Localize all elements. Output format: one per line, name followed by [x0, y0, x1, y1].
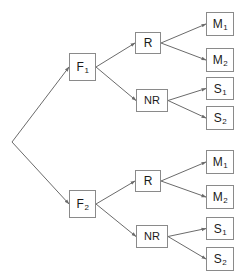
diagram-canvas: F1 R NR M1 M2 S1 S2 F2 R NR M1 M2 S1 S2 [0, 0, 249, 274]
node-f2-r[interactable]: R [135, 170, 161, 192]
edge-f1-to-f1-r [96, 43, 135, 67]
node-label: M2 [213, 54, 227, 66]
node-f2[interactable]: F2 [69, 190, 96, 218]
edge-f2-to-f2-r [96, 181, 135, 204]
node-label: NR [144, 95, 160, 106]
edge-f2-r-to-f2-m2 [161, 181, 206, 197]
node-f2-s2[interactable]: S2 [206, 247, 234, 271]
edge-f1-r-to-f1-m2 [161, 43, 206, 60]
node-label: M2 [213, 191, 227, 203]
edge-root-to-f2 [12, 142, 69, 204]
node-label: F2 [77, 198, 89, 210]
edge-f1-nr-to-f1-s2 [168, 101, 206, 119]
edge-f1-r-to-f1-m1 [161, 24, 206, 43]
node-label: M1 [213, 18, 227, 30]
node-f1-r[interactable]: R [135, 32, 161, 54]
node-label: S2 [214, 112, 226, 124]
node-f1-s1[interactable]: S1 [206, 77, 234, 100]
node-label: S1 [214, 83, 226, 95]
edge-f2-nr-to-f2-s2 [168, 237, 206, 260]
node-label: S2 [214, 253, 226, 265]
node-f2-s1[interactable]: S1 [206, 217, 234, 240]
node-f2-m2[interactable]: M2 [206, 185, 234, 209]
node-f1-nr[interactable]: NR [136, 89, 168, 112]
edge-f2-r-to-f2-m1 [161, 162, 206, 181]
node-label: M1 [213, 156, 227, 168]
node-f1-s2[interactable]: S2 [206, 106, 234, 130]
node-f1-m2[interactable]: M2 [206, 48, 234, 72]
node-label: R [144, 37, 153, 49]
edge-f1-to-f1-nr [96, 67, 136, 101]
edge-root-to-f1 [12, 67, 69, 142]
node-f1-m1[interactable]: M1 [206, 12, 234, 36]
node-label: R [144, 175, 153, 187]
node-label: NR [144, 231, 160, 242]
node-f2-nr[interactable]: NR [136, 225, 168, 248]
node-label: F1 [77, 61, 89, 73]
node-f2-m1[interactable]: M1 [206, 150, 234, 174]
node-label: S1 [214, 223, 226, 235]
node-f1[interactable]: F1 [69, 53, 96, 81]
edge-f1-nr-to-f1-s1 [168, 89, 206, 101]
edge-f2-to-f2-nr [96, 204, 136, 237]
edge-f2-nr-to-f2-s1 [168, 229, 206, 237]
